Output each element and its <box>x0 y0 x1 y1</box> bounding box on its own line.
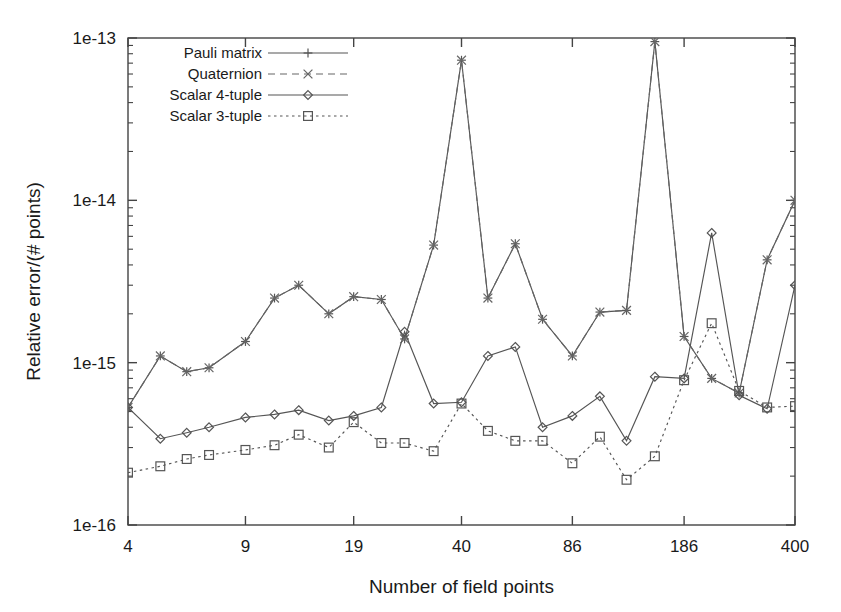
legend-label-2: Scalar 4-tuple <box>169 86 262 103</box>
marker-square <box>707 319 716 328</box>
x-tick-label: 9 <box>241 537 250 556</box>
y-tick-label: 1e-13 <box>73 29 116 48</box>
y-axis-ticks: 1e-161e-151e-141e-13 <box>73 29 795 535</box>
x-tick-label: 400 <box>781 537 809 556</box>
x-tick-label: 40 <box>452 537 471 556</box>
x-tick-label: 86 <box>563 537 582 556</box>
chart-canvas: 1e-161e-151e-141e-1349194086186400Number… <box>0 0 841 612</box>
legend-label-0: Pauli matrix <box>184 44 263 61</box>
legend-label-1: Quaternion <box>188 65 262 82</box>
x-tick-label: 19 <box>344 537 363 556</box>
chart-legend: Pauli matrixQuaternionScalar 4-tupleScal… <box>169 44 348 124</box>
marker-square <box>241 446 250 455</box>
y-tick-label: 1e-16 <box>73 516 116 535</box>
x-tick-label: 4 <box>123 537 132 556</box>
y-axis-title: Relative error/(# points) <box>23 182 44 381</box>
marker-square <box>349 418 358 427</box>
legend-label-3: Scalar 3-tuple <box>169 107 262 124</box>
series-scalar-4-tuple <box>124 229 800 446</box>
marker-square <box>650 452 659 461</box>
x-tick-label: 186 <box>670 537 698 556</box>
chart-figure: 1e-161e-151e-141e-1349194086186400Number… <box>0 0 841 612</box>
marker-square <box>377 439 386 448</box>
y-tick-label: 1e-15 <box>73 354 116 373</box>
x-axis-title: Number of field points <box>369 576 554 597</box>
y-tick-label: 1e-14 <box>73 191 116 210</box>
series-line <box>128 233 795 441</box>
marker-square <box>156 462 165 471</box>
marker-square <box>324 443 333 452</box>
